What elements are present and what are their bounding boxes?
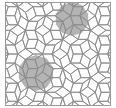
highlight-decagon [56, 2, 88, 36]
penrose-tiling-diagram [0, 0, 116, 108]
